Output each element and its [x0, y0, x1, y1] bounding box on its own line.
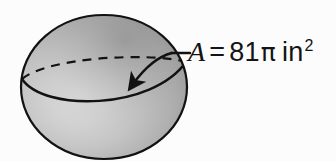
sphere-body — [21, 15, 187, 159]
equals-sign: = — [207, 37, 229, 67]
area-variable-a: A — [188, 36, 207, 67]
sphere-figure: A=81πin2 — [0, 0, 336, 161]
unit-label: in — [276, 37, 303, 67]
area-coefficient: 81 — [229, 37, 259, 67]
pi-symbol: π — [260, 38, 276, 67]
unit-exponent: 2 — [303, 37, 313, 54]
sphere-diagram-svg — [0, 0, 336, 161]
area-label: A=81πin2 — [188, 35, 314, 70]
